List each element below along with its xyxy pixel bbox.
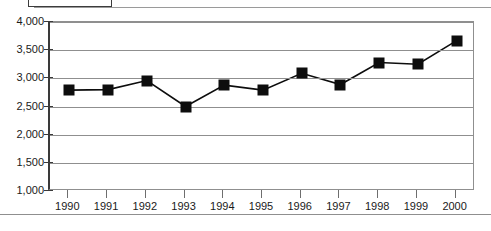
x-axis-tick-label: 1997 xyxy=(326,200,350,212)
gridline xyxy=(50,50,473,51)
x-axis-tick-mark xyxy=(106,190,107,198)
x-axis-tick-mark xyxy=(145,190,146,198)
data-point-marker xyxy=(374,57,385,68)
data-point-marker xyxy=(451,35,462,46)
chart-figure: 1,0001,5002,0002,5003,0003,5004,000 1990… xyxy=(0,0,491,231)
x-axis-tick-label: 1996 xyxy=(287,200,311,212)
y-axis-tick-mark xyxy=(44,106,53,107)
x-axis-tick-mark xyxy=(67,190,68,198)
x-axis-tick-label: 1992 xyxy=(133,200,157,212)
x-axis-tick-mark xyxy=(222,190,223,198)
y-axis-tick-mark xyxy=(44,190,53,191)
data-point-marker xyxy=(141,75,152,86)
x-axis-tick-mark xyxy=(261,190,262,198)
gridline xyxy=(50,163,473,164)
x-axis-tick-mark xyxy=(184,190,185,198)
data-point-marker xyxy=(335,79,346,90)
x-axis-tick-label: 1994 xyxy=(210,200,234,212)
y-axis-tick-mark xyxy=(44,49,53,50)
gridline xyxy=(50,22,473,23)
x-axis-tick-label: 2000 xyxy=(442,200,466,212)
data-point-marker xyxy=(180,101,191,112)
x-axis-tick-label: 1995 xyxy=(249,200,273,212)
y-axis-tick-label: 2,500 xyxy=(16,101,44,112)
x-axis-tick-label: 1999 xyxy=(404,200,428,212)
x-axis-tick-label: 1998 xyxy=(365,200,389,212)
x-axis-tick-label: 1991 xyxy=(94,200,118,212)
data-point-marker xyxy=(219,80,230,91)
y-axis-tick-label: 1,000 xyxy=(16,185,44,196)
y-axis-tick-mark xyxy=(44,77,53,78)
y-axis-tick-label: 2,000 xyxy=(16,129,44,140)
x-axis-tick-label: 1993 xyxy=(171,200,195,212)
y-axis-tick-label: 4,000 xyxy=(16,16,44,27)
top-frame-rule xyxy=(34,7,491,8)
x-axis-tick-mark xyxy=(338,190,339,198)
x-axis-tick-mark xyxy=(416,190,417,198)
y-axis-labels: 1,0001,5002,0002,5003,0003,5004,000 xyxy=(0,0,44,231)
y-axis-tick-mark xyxy=(44,134,53,135)
plot-area xyxy=(48,21,474,190)
y-axis-tick-label: 3,000 xyxy=(16,72,44,83)
x-axis-tick-mark xyxy=(377,190,378,198)
data-point-marker xyxy=(412,59,423,70)
gridline xyxy=(50,107,473,108)
y-axis-tick-mark xyxy=(44,162,53,163)
gridline xyxy=(50,78,473,79)
gridline xyxy=(50,135,473,136)
data-point-marker xyxy=(103,84,114,95)
data-point-marker xyxy=(296,68,307,79)
x-axis-tick-mark xyxy=(300,190,301,198)
data-point-marker xyxy=(64,85,75,96)
data-point-marker xyxy=(258,85,269,96)
y-axis-tick-label: 3,500 xyxy=(16,44,44,55)
bottom-frame-rule xyxy=(0,214,491,215)
y-axis-tick-mark xyxy=(44,21,53,22)
x-axis-tick-mark xyxy=(455,190,456,198)
x-axis-tick-label: 1990 xyxy=(55,200,79,212)
y-axis-tick-label: 1,500 xyxy=(16,157,44,168)
